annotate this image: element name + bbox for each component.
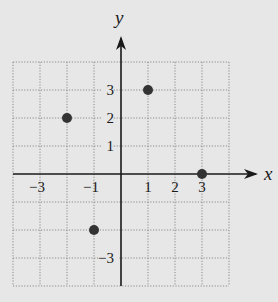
- y-tick-label: −3: [98, 250, 114, 266]
- data-point: [197, 169, 207, 179]
- y-tick-label: 1: [107, 138, 115, 154]
- data-point: [62, 113, 72, 123]
- data-point: [143, 85, 153, 95]
- data-point: [89, 225, 99, 235]
- data-points: [62, 85, 207, 235]
- x-tick-label: 3: [198, 179, 206, 195]
- y-tick-label: 2: [107, 110, 115, 126]
- y-axis-label: y: [113, 7, 124, 28]
- x-tick-label: −1: [83, 179, 99, 195]
- x-tick-label: 2: [171, 179, 179, 195]
- x-tick-label: −3: [29, 179, 45, 195]
- x-axis-label: x: [263, 163, 273, 184]
- axes: [13, 38, 256, 286]
- coordinate-plane: x y −3−1123321−3: [0, 0, 278, 302]
- y-tick-label: 3: [107, 82, 115, 98]
- x-tick-label: 1: [144, 179, 152, 195]
